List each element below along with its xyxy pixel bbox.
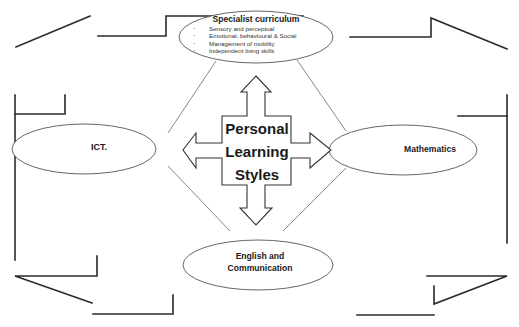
bullet-item: Emotional, behavioural & Social <box>209 32 296 39</box>
bullet-item: Sensory and perceptual <box>209 25 296 32</box>
bullet-item: Independent living skills <box>209 47 296 54</box>
english-communication-label: English and Communication <box>210 250 310 274</box>
center-line-3: Styles <box>216 163 298 186</box>
english-line-1: English and <box>210 250 310 262</box>
center-line-1: Personal <box>216 117 298 140</box>
bullet-item: Management of mobility <box>209 40 296 47</box>
ict-label: ICT. <box>74 142 124 152</box>
specialist-curriculum-title: Specialist curriculum <box>196 14 316 24</box>
mathematics-label: Mathematics <box>375 144 485 154</box>
center-line-2: Learning <box>216 140 298 163</box>
center-title: Personal Learning Styles <box>216 117 298 186</box>
english-line-2: Communication <box>210 262 310 274</box>
specialist-curriculum-bullets: Sensory and perceptual Emotional, behavi… <box>209 25 296 55</box>
